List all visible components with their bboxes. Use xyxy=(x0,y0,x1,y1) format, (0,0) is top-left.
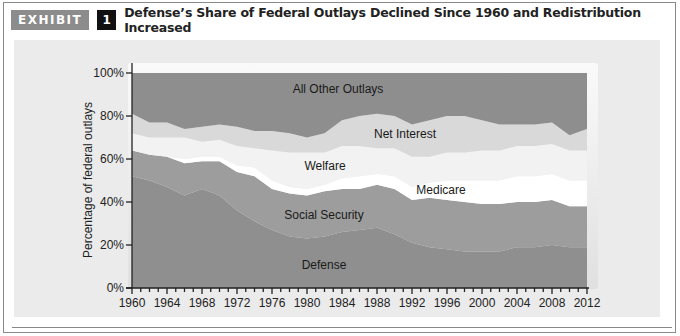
label-welfare: Welfare xyxy=(304,159,345,173)
x-tick-label: 1992 xyxy=(399,296,426,310)
x-tick-label: 1988 xyxy=(364,296,391,310)
x-tick-label: 2012 xyxy=(574,296,601,310)
label-defense: Defense xyxy=(302,258,347,272)
x-tick-label: 1968 xyxy=(189,296,216,310)
x-tick-label: 1972 xyxy=(224,296,251,310)
x-tick-label: 2008 xyxy=(539,296,566,310)
y-tick-label: 80% xyxy=(100,109,124,123)
y-axis-label: Percentage of federal outlays xyxy=(81,102,95,258)
y-tick-label: 60% xyxy=(100,152,124,166)
label-medicare: Medicare xyxy=(416,183,466,197)
y-tick-label: 100% xyxy=(93,66,124,80)
y-tick-label: 40% xyxy=(100,195,124,209)
x-tick-label: 1996 xyxy=(434,296,461,310)
label-social-security: Social Security xyxy=(284,208,363,222)
x-tick-label: 1984 xyxy=(329,296,356,310)
area-layers xyxy=(132,73,587,288)
x-tick-label: 2004 xyxy=(504,296,531,310)
label-net-interest: Net Interest xyxy=(374,127,437,141)
x-tick-label: 1960 xyxy=(119,296,146,310)
x-tick-label: 1964 xyxy=(154,296,181,310)
x-tick-label: 2000 xyxy=(469,296,496,310)
x-tick-label: 1976 xyxy=(259,296,286,310)
y-tick-label: 0% xyxy=(107,281,125,295)
x-tick-label: 1980 xyxy=(294,296,321,310)
stacked-area-chart: All Other Outlays Net Interest Welfare M… xyxy=(0,0,680,336)
label-all-other-outlays: All Other Outlays xyxy=(293,82,384,96)
y-tick-label: 20% xyxy=(100,238,124,252)
